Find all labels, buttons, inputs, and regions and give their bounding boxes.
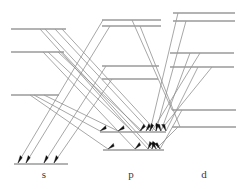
transition-lines-group <box>18 13 212 163</box>
arrowhead <box>99 126 107 132</box>
column-label-p: p <box>121 168 141 180</box>
energy-level-diagram: s p d <box>0 0 246 189</box>
grotrian-diagram-canvas <box>0 0 246 189</box>
transition-line <box>58 52 142 131</box>
arrowhead <box>107 143 115 149</box>
transition-line <box>40 29 148 149</box>
transition-line <box>44 66 106 163</box>
transition-line <box>150 13 178 131</box>
arrowhead <box>154 142 160 150</box>
transition-line <box>160 67 212 131</box>
arrowheads-group <box>16 123 167 163</box>
column-label-s: s <box>34 168 54 180</box>
arrowhead <box>117 126 125 132</box>
arrowhead <box>52 156 58 164</box>
transition-line <box>156 127 178 149</box>
energy-level-lines-group <box>11 13 236 164</box>
transition-line <box>62 29 156 131</box>
transition-line <box>160 110 182 149</box>
transition-line <box>140 26 180 127</box>
transition-line <box>34 95 100 131</box>
column-label-d: d <box>194 168 214 180</box>
